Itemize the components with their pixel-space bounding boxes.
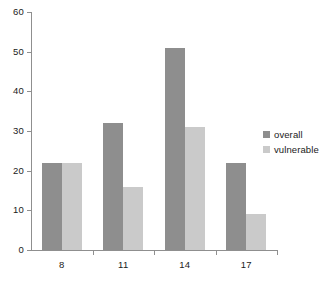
bar-overall-8: [42, 163, 62, 250]
overall-swatch-icon: [263, 131, 270, 138]
legend-item-vulnerable: vulnerable: [263, 142, 334, 157]
x-axis-tick: [154, 250, 155, 255]
bar-overall-17: [226, 163, 246, 250]
legend-item-overall: overall: [263, 127, 334, 142]
vulnerable-swatch-icon: [263, 146, 270, 153]
bar-vulnerable-17: [246, 214, 266, 250]
x-axis-tick: [277, 250, 278, 255]
bar-vulnerable-14: [185, 127, 205, 250]
x-axis-tick: [93, 250, 94, 255]
x-axis-tick-label: 8: [47, 259, 77, 270]
x-axis-tick: [216, 250, 217, 255]
legend-item-label: overall: [274, 129, 303, 140]
y-axis-tick-label: 10: [0, 205, 24, 215]
y-axis-tick-label: 40: [0, 86, 24, 96]
y-axis-tick-label: 0: [0, 245, 24, 255]
y-axis-tick: [27, 250, 32, 251]
legend-item-label: vulnerable: [274, 144, 319, 155]
y-axis-tick-label: 50: [0, 47, 24, 57]
y-axis-tick-label: 60: [0, 7, 24, 17]
bar-overall-11: [103, 123, 123, 250]
bar-vulnerable-11: [123, 187, 143, 250]
bar-vulnerable-8: [62, 163, 82, 250]
legend: overallvulnerable: [263, 127, 334, 157]
bars-layer: [31, 12, 277, 250]
y-axis-tick-label: 30: [0, 126, 24, 136]
x-axis-tick-label: 17: [231, 259, 261, 270]
x-axis-tick-label: 11: [108, 259, 138, 270]
bar-chart: 0102030405060 8111417 overallvulnerable: [0, 0, 334, 282]
x-axis-tick-label: 14: [170, 259, 200, 270]
bar-overall-14: [165, 48, 185, 250]
y-axis-tick-label: 20: [0, 166, 24, 176]
